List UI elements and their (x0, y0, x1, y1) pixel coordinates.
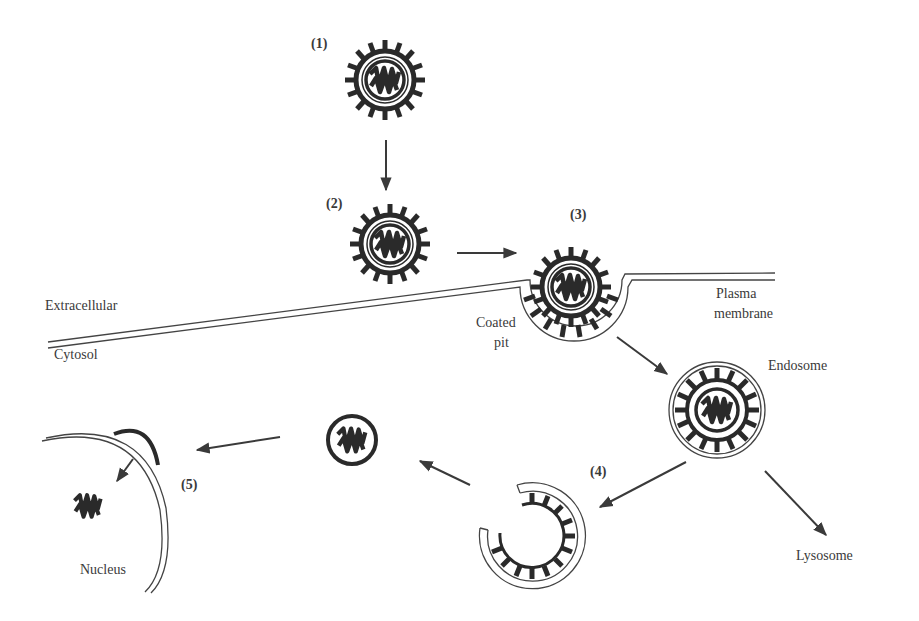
step-2-label: (2) (326, 196, 342, 212)
plasma-membrane (48, 273, 775, 348)
diagram-canvas (0, 0, 919, 621)
arrow-endosome-to-lysosome (765, 471, 826, 535)
virus-step-2 (350, 204, 430, 284)
step-3-label: (3) (570, 207, 586, 223)
plasma-membrane-label-line2: membrane (714, 306, 773, 321)
endosome (669, 362, 765, 458)
arrow-pit-to-endosome (617, 337, 667, 374)
arrow-step-4-to-nucleocapsid (420, 461, 470, 485)
lysosome-label: Lysosome (796, 548, 853, 563)
arrow-to-nucleus (197, 437, 280, 450)
coated-pit-label-line1: Coated (476, 315, 516, 330)
step-5-label: (5) (181, 477, 197, 493)
virus-step-3 (531, 247, 611, 327)
extracellular-label: Extracellular (45, 298, 117, 313)
nucleocapsid (328, 416, 376, 464)
nucleus-label: Nucleus (80, 562, 126, 577)
step-4-label: (4) (590, 464, 606, 480)
step-1-label: (1) (311, 36, 327, 52)
endosome-label: Endosome (768, 358, 827, 373)
virus-step-1 (345, 40, 425, 120)
uncoated-vesicle-step-4 (479, 483, 585, 589)
plasma-membrane-label-line1: Plasma (716, 286, 756, 301)
viral-genome-in-nucleus (75, 495, 101, 517)
coated-pit-label-line2: pit (494, 335, 509, 350)
arrow-endosome-to-step-4 (600, 462, 686, 507)
cytosol-label: Cytosol (54, 347, 98, 362)
arrow-genome-into-nucleus (117, 459, 133, 481)
